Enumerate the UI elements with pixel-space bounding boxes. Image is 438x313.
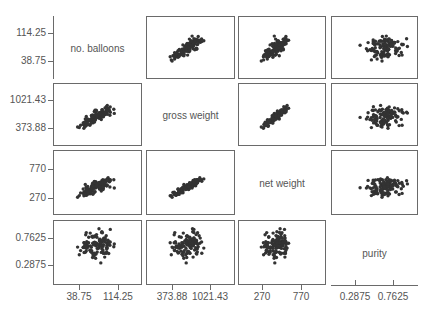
x-tick [172,285,173,290]
y-tick-label: 38.75 [2,56,46,66]
scatter-gross-vs-balloons [146,16,235,79]
variable-label: purity [331,247,418,258]
x-tick-label: 114.25 [93,292,143,302]
scatter-gross-vs-purity [146,220,235,285]
y-tick-label: 1021.43 [2,95,46,105]
x-tick [301,285,302,290]
scatter-balloons-vs-gross [53,83,142,146]
x-tick [79,285,80,290]
scatter-net-vs-gross [238,83,326,146]
x-tick [393,280,394,285]
x-axis-col4 [331,285,418,286]
scatter-net-vs-purity [238,220,326,285]
scatter-points [54,84,141,145]
scatter-balloons-vs-net [53,150,142,215]
y-tick [48,198,53,199]
y-tick [48,238,53,239]
scatter-points [239,84,325,145]
diag-gross-weight: gross weight [146,83,235,146]
scatter-points [54,221,141,284]
scatter-gross-vs-net [146,150,235,215]
scatter-net-vs-balloons [238,16,326,79]
y-tick-label: 770 [2,164,46,174]
y-tick-label: 0.2875 [2,260,46,270]
scatter-points [239,221,325,284]
scatter-points [332,17,417,78]
scatter-purity-vs-balloons [331,16,418,79]
scatter-purity-vs-gross [331,83,418,146]
y-tick-label: 270 [2,193,46,203]
diag-net-weight: net weight [238,150,326,215]
scatter-points [147,151,234,214]
variable-label: no. balloons [53,42,142,53]
x-tick [118,285,119,290]
y-tick [48,265,53,266]
y-tick [48,169,53,170]
y-tick [48,128,53,129]
scatter-points [332,84,417,145]
scatter-points [332,151,417,214]
y-tick [48,100,53,101]
y-axis-row1 [53,16,54,79]
x-tick-label: 0.7625 [368,292,418,302]
y-tick [48,33,53,34]
x-tick [355,280,356,285]
x-tick [210,285,211,290]
scatter-points [147,221,234,284]
diag-purity: purity [331,220,418,285]
scatter-purity-vs-net [331,150,418,215]
variable-label: gross weight [146,109,235,120]
variable-label: net weight [238,177,326,188]
scatter-balloons-vs-purity [53,220,142,285]
y-tick-label: 373.88 [2,123,46,133]
scatter-points [239,17,325,78]
y-tick-label: 0.7625 [2,233,46,243]
scatter-points [54,151,141,214]
x-tick-label: 1021.43 [185,292,235,302]
y-tick-label: 114.25 [2,28,46,38]
scatter-points [147,17,234,78]
y-tick [48,61,53,62]
x-tick-label: 770 [276,292,326,302]
x-tick [262,285,263,290]
diag-no-balloons: no. balloons [53,16,142,79]
